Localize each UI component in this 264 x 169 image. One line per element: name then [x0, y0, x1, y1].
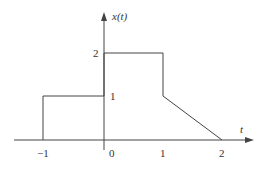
signal-plot: x(t) t −1 0 1 2 1 2	[0, 0, 264, 169]
x-axis-label: t	[240, 123, 244, 135]
x-tick-1: 1	[160, 147, 166, 159]
y-axis-arrow-icon	[101, 12, 107, 21]
y-axis-label: x(t)	[111, 10, 128, 23]
y-tick-1: 1	[110, 90, 116, 102]
y-tick-2: 2	[93, 47, 99, 59]
signal-line	[43, 53, 222, 140]
x-tick-0: 0	[109, 147, 115, 159]
x-tick-2: 2	[219, 147, 225, 159]
x-axis-arrow-icon	[245, 137, 254, 143]
x-tick-minus1: −1	[37, 147, 49, 159]
